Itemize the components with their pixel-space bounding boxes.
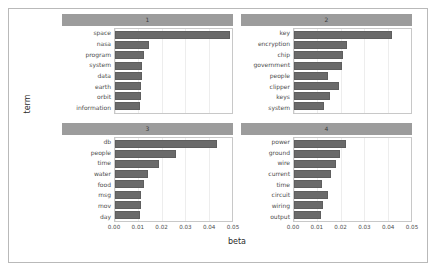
y-tick-label: msg xyxy=(98,192,111,198)
y-tick-label: food xyxy=(98,182,111,188)
facet-body-2: key encryption chip government people cl… xyxy=(241,28,412,114)
bar xyxy=(115,191,141,199)
bar-row xyxy=(294,160,411,168)
bar xyxy=(115,72,142,80)
bar-row xyxy=(294,211,411,219)
bar xyxy=(294,62,342,70)
x-tick-labels-left: 0.000.010.020.030.040.05 xyxy=(114,224,233,236)
y-tick-labels-3: db people time water food msg mov day xyxy=(62,137,114,223)
facet-panel-3: 3 db people time water food msg mov day xyxy=(62,123,233,223)
x-tick-label: 0.03 xyxy=(358,225,370,231)
y-tick-label: output xyxy=(270,214,290,220)
bar-row xyxy=(294,140,411,148)
bar xyxy=(294,191,328,199)
bar xyxy=(115,82,141,90)
facet-strip-4: 4 xyxy=(241,123,412,135)
panel-area-4 xyxy=(293,137,412,223)
bar-row xyxy=(115,211,232,219)
bar xyxy=(294,160,336,168)
bar-row xyxy=(294,31,411,39)
y-tick-label: ground xyxy=(269,150,290,156)
bar xyxy=(115,201,141,209)
y-tick-label: wire xyxy=(277,160,290,166)
y-tick-label: day xyxy=(100,214,111,220)
y-tick-labels-2: key encryption chip government people cl… xyxy=(241,28,293,114)
bar xyxy=(294,41,347,49)
x-axis-right-spacer xyxy=(241,224,293,236)
bar-row xyxy=(294,191,411,199)
chart-figure: 1 space nasa program system data earth o… xyxy=(0,0,436,271)
y-tick-label: clipper xyxy=(270,84,290,90)
bar xyxy=(115,140,217,148)
bar xyxy=(294,170,331,178)
bar xyxy=(115,150,176,158)
facet-grid: 1 space nasa program system data earth o… xyxy=(62,14,412,222)
bar-row xyxy=(115,160,232,168)
bar xyxy=(115,62,142,70)
y-tick-label: system xyxy=(268,105,290,111)
panel-area-3 xyxy=(114,137,233,223)
bar-row xyxy=(115,150,232,158)
bars-1 xyxy=(115,29,232,113)
bar-row xyxy=(294,82,411,90)
x-tick-label: 0.05 xyxy=(227,225,239,231)
y-tick-label: program xyxy=(85,52,111,58)
y-tick-label: current xyxy=(268,171,290,177)
y-tick-label: circuit xyxy=(272,192,290,198)
y-tick-label: orbit xyxy=(97,94,111,100)
facet-panel-1: 1 space nasa program system data earth o… xyxy=(62,14,233,114)
y-axis-title: term xyxy=(24,74,32,134)
bar-row xyxy=(115,191,232,199)
y-tick-label: system xyxy=(89,62,111,68)
y-tick-labels-4: power ground wire current time circuit w… xyxy=(241,137,293,223)
bar xyxy=(294,211,321,219)
bars-4 xyxy=(294,138,411,222)
y-tick-label: nasa xyxy=(97,41,111,47)
facet-body-4: power ground wire current time circuit w… xyxy=(241,137,412,223)
facet-panel-2: 2 key encryption chip government people … xyxy=(241,14,412,114)
x-axis-left: 0.000.010.020.030.040.05 xyxy=(62,224,233,236)
bar xyxy=(294,201,323,209)
bar xyxy=(294,140,346,148)
y-tick-label: key xyxy=(279,30,290,36)
bar-row xyxy=(115,140,232,148)
x-tick-label: 0.05 xyxy=(406,225,418,231)
bar xyxy=(294,72,328,80)
y-tick-label: chip xyxy=(277,52,290,58)
y-tick-label: db xyxy=(103,139,111,145)
y-tick-label: information xyxy=(76,105,111,111)
bar xyxy=(115,211,140,219)
x-tick-label: 0.04 xyxy=(382,225,394,231)
y-tick-label: water xyxy=(94,171,111,177)
bar xyxy=(294,31,392,39)
bar-row xyxy=(115,51,232,59)
bar-row xyxy=(294,180,411,188)
y-tick-label: people xyxy=(270,73,290,79)
bar xyxy=(115,51,144,59)
bar xyxy=(294,92,330,100)
bar-row xyxy=(115,180,232,188)
bar xyxy=(294,102,324,110)
x-tick-label: 0.01 xyxy=(311,225,323,231)
bar xyxy=(115,170,148,178)
x-tick-label: 0.01 xyxy=(132,225,144,231)
facet-strip-1: 1 xyxy=(62,14,233,26)
gridline xyxy=(411,29,412,113)
x-tick-label: 0.02 xyxy=(155,225,167,231)
y-tick-labels-1: space nasa program system data earth orb… xyxy=(62,28,114,114)
x-axis-right: 0.000.010.020.030.040.05 xyxy=(241,224,412,236)
bar-row xyxy=(115,62,232,70)
y-tick-label: time xyxy=(97,160,111,166)
gridline xyxy=(232,138,233,222)
bar-row xyxy=(294,92,411,100)
y-tick-label: space xyxy=(93,30,111,36)
bar-row xyxy=(294,62,411,70)
bar-row xyxy=(294,150,411,158)
y-tick-label: data xyxy=(97,73,111,79)
x-tick-label: 0.02 xyxy=(334,225,346,231)
bar-row xyxy=(115,170,232,178)
gridline xyxy=(232,29,233,113)
facet-body-1: space nasa program system data earth orb… xyxy=(62,28,233,114)
bar-row xyxy=(115,31,232,39)
x-tick-label: 0.00 xyxy=(287,225,299,231)
